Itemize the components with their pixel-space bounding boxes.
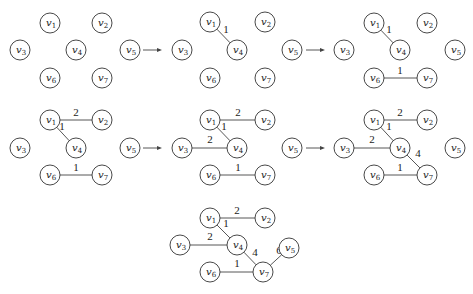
- vertex-v6: v6: [200, 262, 220, 282]
- graph-panel-step-1: v1v2v3v4v5v6v7: [10, 13, 140, 88]
- edge-v6-v7: 1: [220, 161, 255, 175]
- edge-weight-label: 2: [207, 133, 213, 145]
- kruskal-diagram: v1v2v3v4v5v6v71v1v2v3v4v5v6v711v1v2v3v4v…: [0, 0, 473, 294]
- edge-weight-label: 1: [386, 23, 392, 35]
- edge-weight-label: 2: [207, 230, 213, 242]
- edge-weight-label: 1: [73, 161, 79, 173]
- vertex-v1: v1: [40, 13, 60, 33]
- vertex-v2: v2: [92, 110, 112, 130]
- vertex-v5: v5: [445, 40, 465, 60]
- vertex-v5: v5: [282, 40, 302, 60]
- edge-weight-label: 2: [397, 106, 403, 118]
- vertex-v1: v1: [200, 208, 220, 228]
- step-arrow-icon: [306, 146, 325, 150]
- edge-weight-label: 1: [386, 120, 392, 132]
- vertex-v2: v2: [417, 110, 437, 130]
- vertex-v3: v3: [170, 235, 190, 255]
- edge-v6-v7: 1: [384, 64, 417, 78]
- vertex-v6: v6: [200, 68, 220, 88]
- vertex-v1: v1: [364, 110, 384, 130]
- edge-v1-v2: 2: [220, 106, 255, 120]
- edge-weight-label: 2: [234, 204, 240, 216]
- vertex-v1: v1: [364, 13, 384, 33]
- vertex-v2: v2: [255, 110, 275, 130]
- edge-weight-label: 1: [221, 120, 227, 132]
- edge-v3-v4: 2: [192, 133, 227, 148]
- vertex-v7: v7: [92, 68, 112, 88]
- edge-v6-v7: 1: [60, 161, 92, 175]
- edge-weight-label: 1: [223, 23, 229, 35]
- graph-panel-step-7: 212461v1v2v3v4v5v6v7: [170, 204, 299, 282]
- vertex-v6: v6: [40, 165, 60, 185]
- vertex-v5: v5: [282, 138, 302, 158]
- vertex-v3: v3: [334, 40, 354, 60]
- vertex-v4: v4: [227, 40, 247, 60]
- vertex-v4: v4: [66, 138, 86, 158]
- vertex-v5: v5: [445, 138, 465, 158]
- vertex-v1: v1: [40, 110, 60, 130]
- vertex-v7: v7: [92, 165, 112, 185]
- step-arrow-icon: [143, 146, 162, 150]
- edge-weight-label: 1: [397, 64, 403, 76]
- vertex-v3: v3: [172, 138, 192, 158]
- vertex-v4: v4: [390, 138, 410, 158]
- edge-weight-label: 4: [252, 246, 258, 258]
- vertex-v4: v4: [66, 40, 86, 60]
- vertex-v6: v6: [200, 165, 220, 185]
- vertex-v2: v2: [255, 12, 275, 32]
- graph-panel-step-3: 11v1v2v3v4v5v6v7: [334, 13, 465, 88]
- graph-panel-step-4: 211v1v2v3v4v5v6v7: [10, 106, 140, 185]
- edge-v3-v4: 2: [354, 133, 390, 148]
- vertex-v3: v3: [172, 40, 192, 60]
- vertex-v1: v1: [200, 110, 220, 130]
- edge-weight-label: 4: [415, 147, 421, 159]
- vertex-v5: v5: [279, 238, 299, 258]
- vertex-v6: v6: [364, 68, 384, 88]
- edge-weight-label: 1: [235, 161, 241, 173]
- vertex-v3: v3: [334, 138, 354, 158]
- vertex-v6: v6: [364, 165, 384, 185]
- edge-v1-v2: 2: [384, 106, 417, 120]
- vertex-v7: v7: [255, 165, 275, 185]
- vertex-v7: v7: [417, 165, 437, 185]
- edge-v1-v2: 2: [60, 106, 92, 120]
- step-arrow-icon: [306, 48, 325, 52]
- vertex-v7: v7: [417, 68, 437, 88]
- vertex-v4: v4: [390, 40, 410, 60]
- graph-panel-step-5: 2121v1v2v3v4v5v6v7: [172, 106, 302, 185]
- vertex-v2: v2: [92, 13, 112, 33]
- vertex-v2: v2: [255, 208, 275, 228]
- edge-weight-label: 1: [223, 217, 229, 229]
- edge-v3-v4: 2: [190, 230, 227, 245]
- vertex-v3: v3: [10, 40, 30, 60]
- vertex-v7: v7: [255, 68, 275, 88]
- step-arrow-icon: [143, 48, 162, 52]
- vertex-v5: v5: [120, 40, 140, 60]
- vertex-v2: v2: [417, 13, 437, 33]
- edge-v6-v7: 1: [384, 161, 417, 175]
- graph-panel-step-6: 21241v1v2v3v4v5v6v7: [334, 106, 465, 185]
- vertex-v7: v7: [253, 262, 273, 282]
- vertex-v4: v4: [227, 235, 247, 255]
- vertex-v6: v6: [40, 68, 60, 88]
- vertex-v1: v1: [200, 12, 220, 32]
- vertex-v3: v3: [10, 138, 30, 158]
- edge-weight-label: 2: [235, 106, 241, 118]
- edge-weight-label: 1: [397, 161, 403, 173]
- edge-v6-v7: 1: [220, 257, 253, 272]
- edge-weight-label: 2: [73, 106, 79, 118]
- vertex-v4: v4: [227, 138, 247, 158]
- vertex-v5: v5: [120, 138, 140, 158]
- edge-v1-v2: 2: [220, 204, 255, 218]
- edge-weight-label: 2: [369, 133, 375, 145]
- edge-weight-label: 1: [234, 257, 240, 269]
- graph-panel-step-2: 1v1v2v3v4v5v6v7: [172, 12, 302, 88]
